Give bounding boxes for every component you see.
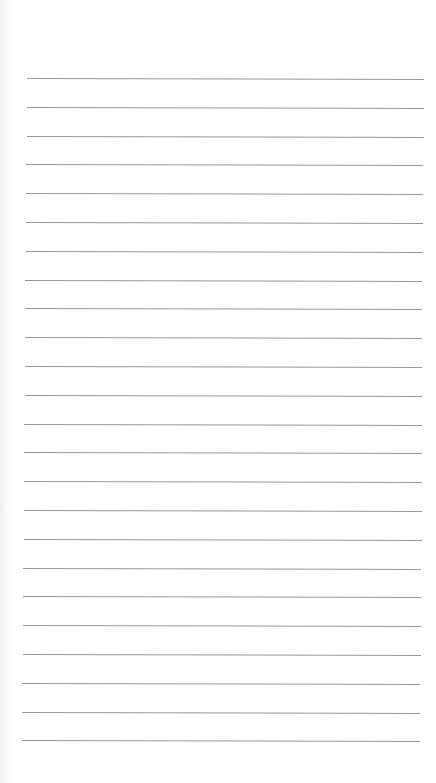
ruled-line [27, 78, 424, 80]
ruled-line [24, 539, 422, 541]
ruled-line [22, 683, 420, 685]
ruled-line [24, 481, 422, 483]
ruled-line [24, 424, 422, 426]
ruled-line [24, 452, 422, 454]
ruled-line [22, 740, 420, 742]
ruled-line [26, 193, 423, 195]
ruled-line [25, 337, 422, 339]
lined-paper-page [0, 0, 436, 783]
ruled-line [26, 251, 423, 253]
ruled-line [23, 568, 421, 570]
ruled-line [23, 596, 421, 598]
ruled-line [27, 107, 424, 109]
ruled-line [26, 222, 423, 224]
ruled-line [23, 625, 421, 627]
ruled-line [25, 308, 422, 310]
ruled-line [24, 510, 422, 512]
ruled-line [25, 366, 422, 368]
ruled-line [22, 712, 420, 714]
ruled-line [25, 395, 422, 397]
ruled-line [25, 280, 422, 282]
ruled-line [23, 654, 421, 656]
ruled-line [27, 136, 424, 138]
ruled-line [26, 164, 423, 166]
